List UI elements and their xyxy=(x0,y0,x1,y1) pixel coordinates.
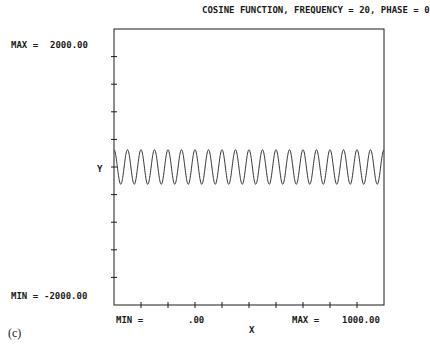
cosine-curve xyxy=(114,150,384,185)
plot-frame xyxy=(114,29,384,305)
